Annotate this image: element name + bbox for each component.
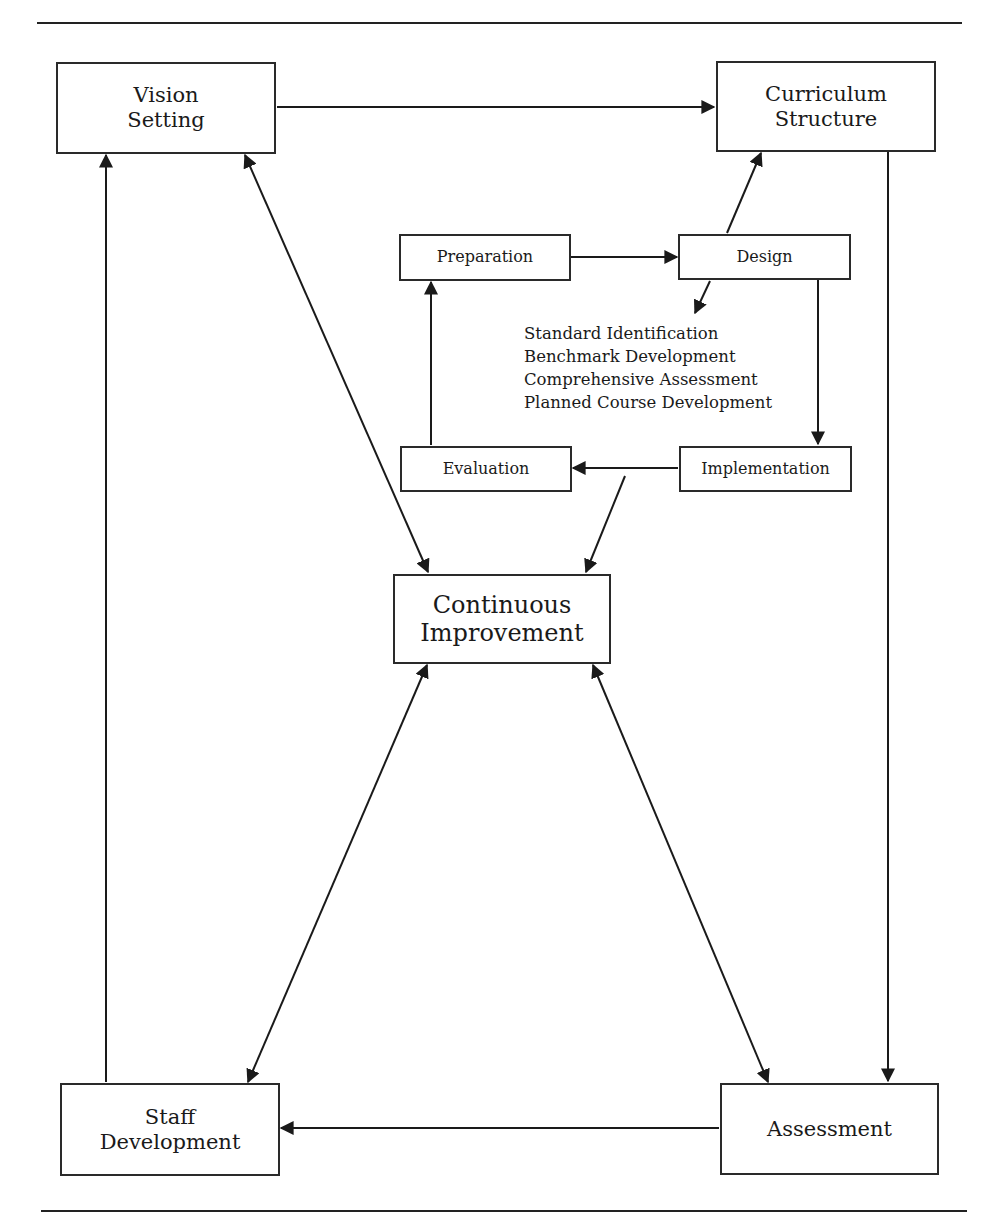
node-label: Design (736, 248, 792, 267)
node-label-line: Staff (100, 1105, 241, 1130)
node-label: Implementation (701, 460, 830, 479)
node-implementation: Implementation (679, 446, 852, 492)
node-label: Preparation (437, 248, 533, 267)
bottom-rule (41, 1210, 967, 1212)
node-label-line: Development (100, 1130, 241, 1155)
list-item: Standard Identification (524, 322, 772, 345)
arrow-design-to-list (695, 281, 710, 313)
design-outputs-list: Standard Identification Benchmark Develo… (524, 322, 772, 414)
node-curriculum-structure: Curriculum Structure (716, 61, 936, 152)
node-label-line: Continuous (420, 591, 583, 619)
node-label-line: Setting (127, 108, 204, 133)
arrow-cycle-to-continuous (586, 476, 625, 572)
node-label-line: Improvement (420, 619, 583, 647)
node-label-line: Structure (765, 107, 887, 132)
list-item: Planned Course Development (524, 391, 772, 414)
arrow-design-to-curriculum (727, 153, 761, 233)
arrow-continuous-assessment (593, 665, 768, 1082)
node-label: Evaluation (443, 460, 530, 479)
node-label-line: Curriculum (765, 82, 887, 107)
node-preparation: Preparation (399, 234, 571, 281)
node-vision-setting: Vision Setting (56, 62, 276, 154)
list-item: Benchmark Development (524, 345, 772, 368)
arrow-continuous-staff (248, 665, 427, 1082)
node-evaluation: Evaluation (400, 446, 572, 492)
node-assessment: Assessment (720, 1083, 939, 1175)
node-continuous-improvement: Continuous Improvement (393, 574, 611, 664)
list-item: Comprehensive Assessment (524, 368, 772, 391)
node-staff-development: Staff Development (60, 1083, 280, 1176)
arrow-vision-continuous (245, 155, 428, 572)
node-label: Assessment (767, 1117, 892, 1142)
node-label-line: Vision (127, 83, 204, 108)
top-rule (37, 22, 962, 24)
node-design: Design (678, 234, 851, 280)
